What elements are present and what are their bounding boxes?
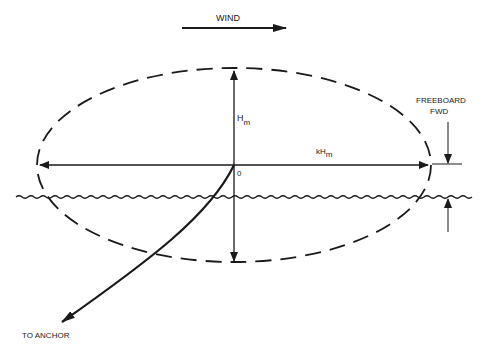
freeboard-label-line2: FWD: [430, 107, 448, 116]
anchor-label: TO ANCHOR: [22, 331, 70, 340]
horizontal-label: kHm: [316, 147, 333, 159]
wind-label: WIND: [216, 13, 240, 23]
height-label: Hm: [237, 113, 251, 127]
origin-label: 0: [237, 169, 242, 178]
wind-indicator: WIND: [182, 13, 286, 28]
anchor-line: [62, 165, 234, 322]
freeboard-label-line1: FREEBOARD: [416, 96, 466, 105]
motion-envelope-diagram: WIND Hm kHm 0 FREEBOARD FWD TO ANCHOR: [0, 0, 498, 347]
waterline: [16, 196, 472, 199]
freeboard-dimension: FREEBOARD FWD: [416, 96, 466, 232]
